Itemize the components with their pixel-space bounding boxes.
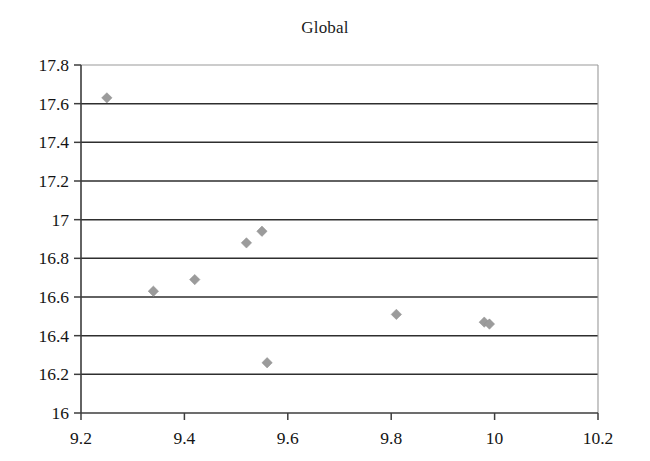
y-tick-label: 17.2 bbox=[38, 171, 69, 191]
y-tick-label: 17.8 bbox=[38, 55, 69, 75]
y-tick-label: 17.6 bbox=[38, 94, 69, 114]
x-tick-label: 9.4 bbox=[173, 428, 195, 448]
y-tick-label: 16.4 bbox=[38, 326, 69, 346]
y-tick-label: 16 bbox=[52, 403, 70, 423]
y-tick-label: 16.6 bbox=[38, 287, 69, 307]
data-point-marker bbox=[391, 309, 401, 319]
y-axis-tick-labels: 1616.216.416.616.81717.217.417.617.8 bbox=[38, 55, 69, 423]
data-point-marker bbox=[241, 238, 251, 248]
y-tick-label: 16.2 bbox=[38, 364, 69, 384]
y-tick-label: 16.8 bbox=[38, 248, 69, 268]
plot-area: 1616.216.416.616.81717.217.417.617.8 9.2… bbox=[0, 0, 650, 461]
y-tick-label: 17 bbox=[52, 210, 70, 230]
data-point-marker bbox=[148, 286, 158, 296]
x-tick-label: 10 bbox=[486, 428, 504, 448]
data-point-marker bbox=[190, 274, 200, 284]
axis-lines bbox=[81, 65, 598, 413]
x-tick-label: 9.2 bbox=[70, 428, 92, 448]
data-point-marker bbox=[102, 93, 112, 103]
x-tick-label: 10.2 bbox=[583, 428, 614, 448]
x-tick-label: 9.6 bbox=[277, 428, 299, 448]
y-tick-label: 17.4 bbox=[38, 132, 69, 152]
x-axis-ticks bbox=[81, 413, 598, 420]
x-axis-tick-labels: 9.29.49.69.81010.2 bbox=[70, 428, 613, 448]
data-markers-group bbox=[102, 93, 495, 368]
data-point-marker bbox=[257, 226, 267, 236]
gridlines-group bbox=[81, 104, 598, 375]
data-point-marker bbox=[262, 358, 272, 368]
scatter-chart: Global 1616.216.416.616.81717.217.417.61… bbox=[0, 0, 650, 461]
x-tick-label: 9.8 bbox=[380, 428, 402, 448]
y-axis-ticks bbox=[74, 65, 81, 413]
plot-frame bbox=[81, 65, 598, 413]
